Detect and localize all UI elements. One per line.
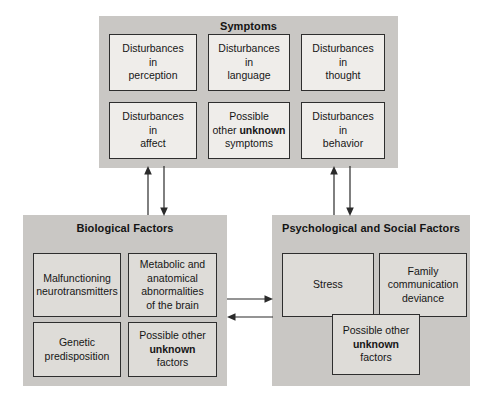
box-line-1: Family [408,265,439,277]
box-line-1: Disturbances [122,42,183,54]
box-possible-other-unknown-factors-psychosocial: Possible other unknown factors [332,314,420,375]
box-line-1: Stress [313,278,343,290]
box-line-2: in [339,56,347,68]
box-stress: Stress [282,253,374,317]
box-possible-other-unknown-factors-biological: Possible other unknown factors [128,322,217,377]
box-line-3: affect [140,137,166,149]
box-line-3: perception [128,69,177,81]
arrow-biological-to-symptoms [141,166,155,216]
box-line-3: thought [325,69,360,81]
box-line-2: in [149,56,157,68]
box-line-1: Malfunctioning [43,272,111,284]
box-line-3: deviance [402,292,444,304]
box-line-3: language [227,69,270,81]
panel-biological-factors-title: Biological Factors [23,222,227,234]
arrow-psychosocial-to-biological [227,310,273,324]
box-metabolic-anatomical-abnormalities: Metabolic and anatomical abnormalities o… [128,253,217,317]
box-line-2: anatomical [147,272,198,284]
box-emphasis: unknown [353,338,399,350]
box-malfunctioning-neurotransmitters: Malfunctioning neurotransmitters [33,253,121,317]
box-disturbances-affect: Disturbances in affect [109,102,197,159]
arrow-symptoms-to-biological [157,166,171,216]
diagram-canvas: Symptoms Disturbances in perception Dist… [0,0,499,402]
box-line-1: Metabolic and [140,258,205,270]
box-disturbances-perception: Disturbances in perception [109,34,197,91]
box-line-1: Possible other [139,329,206,341]
box-line-3: factors [157,356,189,368]
box-line-2: in [245,56,253,68]
box-line-3: symptoms [225,137,273,149]
box-emphasis: unknown [149,343,195,355]
box-line-3: abnormalities [141,285,203,297]
box-possible-other-unknown-symptoms: Possible other unknown symptoms [208,102,290,159]
box-disturbances-language: Disturbances in language [208,34,290,91]
box-genetic-predisposition: Genetic predisposition [33,322,121,377]
box-family-communication-deviance: Family communication deviance [379,253,467,317]
box-line-1: Disturbances [122,110,183,122]
box-line-1: Disturbances [312,110,373,122]
panel-symptoms-title: Symptoms [99,20,398,32]
box-line-4: of the brain [146,299,199,311]
box-line-2: other [213,124,240,136]
box-line-2: predisposition [45,350,110,362]
box-line-3: factors [360,351,392,363]
box-line-1: Disturbances [312,42,373,54]
box-line-1: Disturbances [218,42,279,54]
box-line-2: in [339,124,347,136]
box-line-2: communication [388,278,459,290]
panel-psychological-social-factors-title: Psychological and Social Factors [272,222,470,234]
box-disturbances-behavior: Disturbances in behavior [301,102,385,159]
box-line-1: Genetic [59,336,95,348]
arrow-symptoms-to-psychosocial [343,166,357,216]
box-line-2: in [149,124,157,136]
arrow-psychosocial-to-symptoms [327,166,341,216]
box-line-3: behavior [323,137,363,149]
arrow-biological-to-psychosocial [227,292,273,306]
box-disturbances-thought: Disturbances in thought [301,34,385,91]
box-emphasis: unknown [239,124,285,136]
box-line-1: Possible other [343,324,410,336]
box-line-1: Possible [229,110,269,122]
box-line-2: neurotransmitters [36,285,118,297]
